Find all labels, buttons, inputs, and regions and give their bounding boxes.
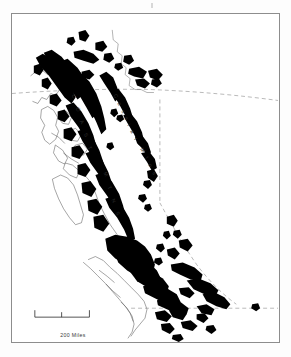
shade-outlier-b bbox=[172, 334, 184, 342]
coast-fjord-detail-d bbox=[106, 284, 120, 297]
shade-outlier-c bbox=[206, 325, 217, 334]
shade-coast-west-b bbox=[42, 78, 52, 90]
shade-north-f bbox=[123, 55, 134, 65]
coast-southern-tip bbox=[121, 302, 134, 338]
shade-south-rockies-j bbox=[197, 313, 209, 323]
shade-coast-west-d bbox=[58, 109, 70, 122]
shade-cassiar-e bbox=[141, 151, 157, 171]
shade-north-b bbox=[95, 41, 107, 52]
shade-cassiar-dot-a bbox=[110, 108, 118, 117]
shade-north-i bbox=[135, 79, 150, 89]
shade-north-c bbox=[74, 50, 100, 64]
shade-north-d bbox=[103, 53, 114, 63]
shade-coast-west-i bbox=[87, 199, 102, 215]
shade-outlier-f bbox=[106, 142, 114, 150]
scale-bar bbox=[35, 310, 90, 317]
shade-outlier-a bbox=[251, 303, 260, 311]
coast-fjord-detail-c bbox=[99, 270, 114, 282]
shade-north-g bbox=[128, 67, 147, 79]
shade-south-rockies-g bbox=[155, 310, 172, 322]
shade-interior-a bbox=[167, 215, 178, 227]
map-figure-frame: C O A S T M T N S C a s s i a bbox=[11, 13, 280, 343]
shade-interior-b bbox=[163, 231, 171, 240]
shade-cassiar-dot-c bbox=[138, 194, 147, 203]
shade-coast-west-j bbox=[93, 215, 109, 232]
shade-coast-west-h bbox=[81, 181, 96, 197]
mountain-shading-group bbox=[34, 30, 260, 342]
shade-north-h bbox=[148, 69, 163, 81]
coast-strait-of-georgia bbox=[83, 262, 133, 321]
shade-north-a bbox=[79, 30, 90, 42]
shade-north-l bbox=[67, 37, 76, 46]
shade-south-rockies-i bbox=[161, 323, 175, 334]
shade-cassiar-dot-d bbox=[144, 204, 152, 212]
shade-coast-west-c bbox=[50, 94, 62, 107]
shade-north-j bbox=[151, 79, 162, 88]
coast-haida-gwaii bbox=[41, 106, 59, 144]
shade-interior-d bbox=[179, 239, 193, 252]
shade-interior-c bbox=[173, 230, 182, 239]
shade-interior-f bbox=[156, 244, 165, 253]
shade-coast-west-f bbox=[72, 145, 85, 159]
shade-south-rockies-e bbox=[197, 304, 215, 315]
shade-coast-west-g bbox=[78, 163, 91, 177]
figure-page: C O A S T M T N S C a s s i a bbox=[0, 0, 291, 357]
shade-coast-west-e bbox=[64, 127, 77, 141]
coast-inlet-fjord-b bbox=[64, 163, 80, 178]
coast-fjord-detail-b bbox=[52, 133, 65, 143]
scale-bar-caption: 200 Miles bbox=[38, 332, 108, 338]
coast-vancouver-island bbox=[53, 175, 84, 225]
shade-interior-e bbox=[167, 248, 180, 260]
shade-outlier-d bbox=[154, 258, 163, 266]
map-canvas: C O A S T M T N S C a s s i a bbox=[12, 14, 279, 342]
shade-south-rockies-h bbox=[181, 320, 198, 331]
page-artifact-mark bbox=[151, 3, 153, 8]
shade-south-rockies-d bbox=[179, 287, 195, 298]
shade-cassiar-dot-b bbox=[143, 180, 152, 189]
